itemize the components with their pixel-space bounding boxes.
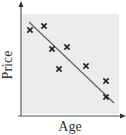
x-axis-arrow-icon: [120, 114, 126, 119]
x-axis-label: Age: [45, 119, 95, 135]
scatter-chart: [0, 0, 126, 135]
y-axis-arrow-icon: [19, 1, 24, 7]
y-axis-label: Price: [0, 45, 16, 85]
